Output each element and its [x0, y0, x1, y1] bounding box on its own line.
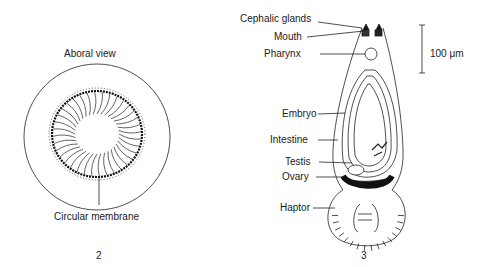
circular-membrane-label: Circular membrane — [54, 211, 139, 223]
diagram-canvas — [0, 0, 487, 267]
intestine-label: Intestine — [270, 134, 308, 146]
testis-label: Testis — [285, 156, 311, 168]
scale-bar-label: 100 μm — [430, 48, 464, 60]
mouth-label: Mouth — [274, 31, 302, 43]
cephalic-glands-label: Cephalic glands — [240, 13, 311, 25]
aboral-view-title: Aboral view — [64, 48, 116, 60]
haptor-label: Haptor — [280, 202, 310, 214]
aboral-view-drawing — [24, 64, 170, 210]
figure-3-number: 3 — [361, 250, 367, 262]
monogenean-drawing — [307, 22, 425, 251]
embryo-label: Embryo — [282, 108, 316, 120]
ovary-label: Ovary — [282, 171, 309, 183]
pharynx-label: Pharynx — [264, 48, 301, 60]
figure-2-number: 2 — [96, 250, 102, 262]
